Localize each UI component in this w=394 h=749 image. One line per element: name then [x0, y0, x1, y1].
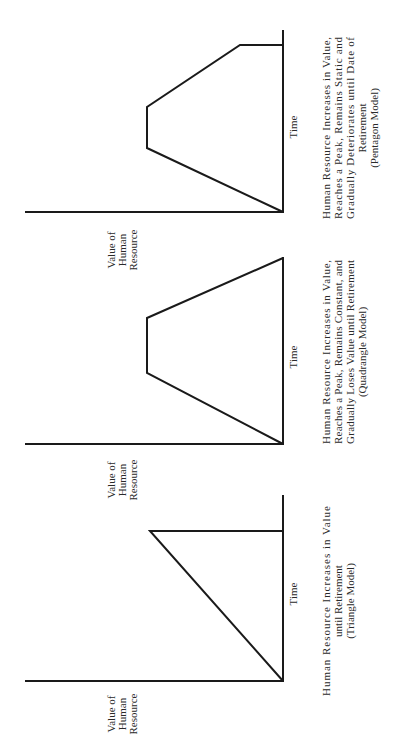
svg-text:Human Resource Increases in Va: Human Resource Increases in Value — [320, 506, 332, 696]
quadrangle-caption: Human Resource Increases in Value, Reach… — [320, 260, 369, 445]
pentagon-curve — [147, 45, 283, 212]
svg-text:Resource: Resource — [127, 459, 139, 500]
triangle-curve — [150, 531, 283, 681]
svg-text:Reaches a Peak, Remains Static: Reaches a Peak, Remains Static and — [332, 37, 344, 220]
svg-text:Human Resource Increases in Va: Human Resource Increases in Value, — [320, 260, 332, 444]
quadrangle-curve — [147, 258, 283, 444]
svg-text:Reaches a Peak, Remains Consta: Reaches a Peak, Remains Constant, and — [332, 260, 344, 445]
quadrangle-model — [25, 257, 283, 445]
pentagon-value-label: Value of Human Resource — [105, 229, 139, 270]
triangle-caption: Human Resource Increases in Value until … — [320, 506, 357, 696]
svg-text:Retirement: Retirement — [356, 104, 368, 153]
pentagon-time-label: Time — [287, 115, 299, 138]
triangle-value-label: Value of Human Resource — [105, 693, 139, 734]
svg-text:Resource: Resource — [127, 229, 139, 270]
svg-text:(Pentagon Model): (Pentagon Model) — [368, 88, 381, 168]
quadrangle-time-label: Time — [287, 345, 299, 368]
svg-text:(Quadrangle Model): (Quadrangle Model) — [356, 307, 369, 397]
svg-text:Gradually Deteriorates until D: Gradually Deteriorates until Date of — [344, 37, 356, 219]
hr-value-models-diagram: Value of Human Resource Time Human Resou… — [0, 0, 394, 749]
pentagon-caption: Human Resource Increases in Value, Reach… — [320, 37, 381, 220]
quadrangle-value-label: Value of Human Resource — [105, 459, 139, 500]
triangle-time-label: Time — [287, 582, 299, 605]
svg-text:Resource: Resource — [127, 693, 139, 734]
triangle-model — [25, 495, 283, 682]
svg-text:Human Resource Increases in Va: Human Resource Increases in Value, — [320, 37, 332, 219]
pentagon-model — [25, 30, 283, 213]
svg-text:Gradually Loses Value until Re: Gradually Loses Value until Retirement — [344, 260, 356, 444]
svg-text:until Retirement: until Retirement — [332, 565, 344, 637]
svg-text:(Triangle Model): (Triangle Model) — [344, 563, 357, 639]
